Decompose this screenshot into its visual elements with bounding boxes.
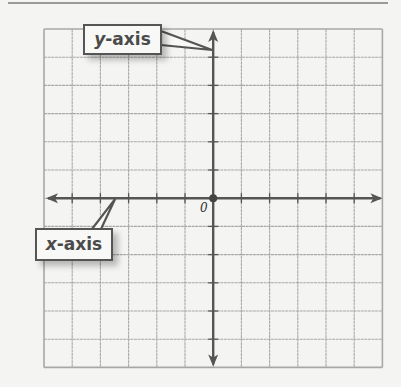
coordinate-grid xyxy=(0,0,401,387)
origin-label: 0 xyxy=(200,201,208,215)
y-axis-label: y-axis xyxy=(83,24,162,55)
axes xyxy=(46,30,382,366)
y-axis-suffix: -axis xyxy=(105,31,150,48)
x-axis-label: x-axis xyxy=(35,228,113,261)
y-axis-variable: y xyxy=(94,31,105,48)
x-axis-suffix: -axis xyxy=(57,236,102,253)
x-axis-variable: x xyxy=(46,236,57,253)
